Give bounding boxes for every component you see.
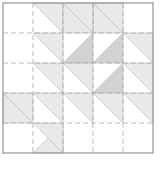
quilt-block-canvas (0, 0, 161, 179)
quilt-block-figure (0, 0, 161, 179)
